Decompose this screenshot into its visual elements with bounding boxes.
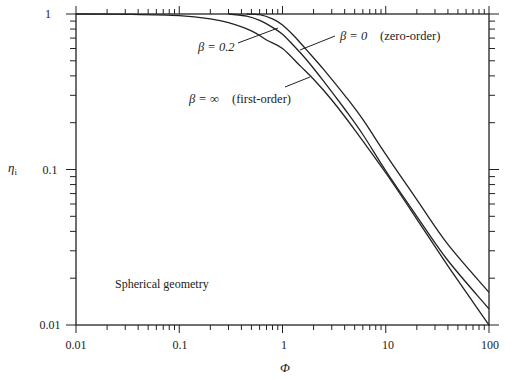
annotation-geometry: Spherical geometry <box>115 277 209 291</box>
y-axis-label: ηi <box>8 160 17 177</box>
leader-betainf <box>285 77 310 87</box>
y-tick-label-0.1: 0.1 <box>43 163 58 177</box>
label-beta02: β = 0.2 <box>197 40 235 54</box>
x-tick-label-10: 10 <box>382 338 394 352</box>
curve-series-0 <box>247 14 489 292</box>
x-axis-label: Φ <box>280 360 290 375</box>
curve-series-1 <box>229 14 490 309</box>
leader-beta02 <box>238 28 278 43</box>
chart-plot: β = 0 (zero-order) β = 0.2 β = ∞ (first-… <box>0 0 509 379</box>
x-tick-label-0.01: 0.01 <box>66 338 87 352</box>
label-beta0-note: (zero-order) <box>380 29 440 43</box>
x-tick-label-0.1: 0.1 <box>173 338 188 352</box>
y-tick-label-1: 1 <box>45 7 51 21</box>
x-tick-label-100: 100 <box>481 338 499 352</box>
label-betainf: β = ∞ <box>188 92 219 106</box>
leader-beta0 <box>300 36 335 50</box>
label-betainf-note: (first-order) <box>232 92 291 106</box>
chart-container: β = 0 (zero-order) β = 0.2 β = ∞ (first-… <box>0 0 509 379</box>
x-tick-label-1: 1 <box>281 338 287 352</box>
label-beta0: β = 0 <box>339 29 368 43</box>
y-tick-label-0.01: 0.01 <box>40 318 61 332</box>
